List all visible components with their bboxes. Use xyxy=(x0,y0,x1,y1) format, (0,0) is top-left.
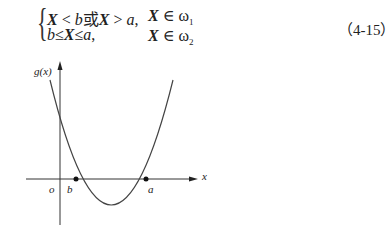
a-label: a xyxy=(148,183,154,195)
parabola-graph xyxy=(0,0,389,225)
x-axis-label: x xyxy=(202,170,207,182)
y-axis-arrow-icon xyxy=(58,61,63,70)
y-axis-label: g(x) xyxy=(34,65,52,77)
b-label: b xyxy=(67,183,73,195)
point-b xyxy=(74,177,79,182)
origin-label: o xyxy=(49,183,55,195)
x-axis-arrow-icon xyxy=(189,177,198,182)
point-a xyxy=(144,177,149,182)
